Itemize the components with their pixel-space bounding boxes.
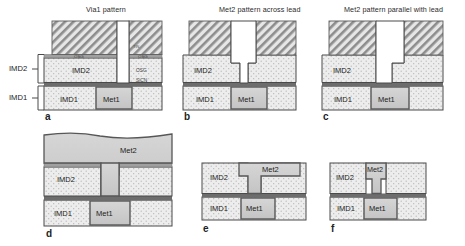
panel-a: IMD2 IMD1 Met1 OSG OSG OSG SiCN TiN [44,21,162,110]
panel-c-imd2-label: IMD2 [333,66,351,75]
panel-a-resist-label: TiN [133,44,139,49]
panel-label-a: a [45,111,51,122]
process-cross-section-diagram: IMD2 IMD1 Met1 OSG OSG OSG SiCN TiN IMD2… [0,0,465,246]
panel-a-title: Via1 pattern [86,5,126,14]
panel-b-imd2-label: IMD2 [194,66,212,75]
panel-b-imd1-label: IMD1 [196,95,214,104]
panel-a-sicn-label: SiCN [136,78,148,83]
panel-a-osg-label-left: OSG [74,54,84,59]
panel-b-met1-label: Met1 [238,95,255,104]
panel-b-title: Met2 pattern across lead [219,5,301,14]
panel-a-met1-label: Met1 [103,95,120,104]
panel-e-met2-label: Met2 [262,165,279,174]
panel-e-imd2-label: IMD2 [210,173,228,182]
panel-d-met2-label: Met2 [120,146,137,155]
panel-a-imd1-label: IMD1 [60,95,78,104]
panel-label-d: d [46,228,52,239]
panel-c-title: Met2 pattern parallel with lead [344,5,443,14]
panel-a-imd2-label: IMD2 [72,66,90,75]
panel-e-imd1-label: IMD1 [210,204,228,213]
panel-e-met1-label: Met1 [246,204,263,213]
panel-label-b: b [184,111,190,122]
panel-f-imd2-label: IMD2 [336,173,354,182]
panel-a-osg-label-right: OSG [138,54,148,59]
panel-f: Met2 IMD2 IMD1 Met1 [330,163,426,220]
panel-d-met1-label: Met1 [96,209,113,218]
side-bracket-imd2 [32,55,44,84]
side-label-imd1: IMD1 [9,93,27,102]
panel-label-f: f [331,223,334,234]
panel-d-imd1-label: IMD1 [54,209,72,218]
panel-d: Met2 IMD2 IMD1 Met1 [44,133,172,226]
panel-label-e: e [203,223,209,234]
panel-label-c: c [323,111,329,122]
figure-root: IMD2 IMD1 Met1 OSG OSG OSG SiCN TiN IMD2… [0,0,465,246]
panel-a-osg-label-body: OSG [136,68,147,73]
panel-f-met2-label: Met2 [367,165,383,174]
panel-c-met1-label: Met1 [378,95,395,104]
side-label-imd2: IMD2 [9,64,27,73]
panel-f-imd1-label: IMD1 [337,204,355,213]
side-bracket-imd1 [32,86,44,110]
panel-e: Met2 IMD2 IMD1 Met1 [202,163,306,220]
panel-f-met1-label: Met1 [369,204,386,213]
panel-d-imd2-label: IMD2 [57,175,75,184]
panel-c: IMD2 IMD1 Met1 [322,21,443,110]
panel-c-imd1-label: IMD1 [334,95,352,104]
panel-b: IMD2 IMD1 Met1 [183,21,296,110]
